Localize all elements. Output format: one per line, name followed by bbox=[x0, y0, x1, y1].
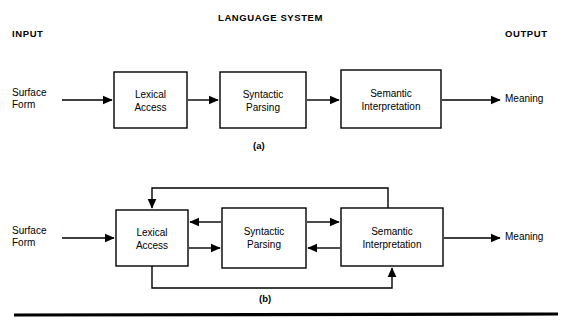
panel-b-input-label-line1: Surface bbox=[12, 225, 46, 237]
panel-b-label-syntactic-parsing: Syntactic Parsing bbox=[222, 226, 306, 251]
panel-b-label-lexical-access-line1: Lexical bbox=[116, 227, 188, 240]
panel-b-input-label: Surface Form bbox=[12, 225, 46, 249]
panel-b-feedback-semantic-to-lexical-top bbox=[152, 188, 388, 208]
panel-a-label-semantic-interpretation-line1: Semantic bbox=[341, 88, 441, 101]
panel-a-label-semantic-interpretation: Semantic Interpretation bbox=[341, 88, 441, 113]
panel-b-label-semantic-interpretation-line2: Interpretation bbox=[341, 239, 443, 252]
panel-a-input-label: Surface Form bbox=[12, 87, 46, 111]
panel-b-caption: (b) bbox=[259, 293, 271, 304]
header-language-system-label: LANGUAGE SYSTEM bbox=[218, 12, 323, 23]
panel-a-input-label-line1: Surface bbox=[12, 87, 46, 99]
panel-b-label-semantic-interpretation: Semantic Interpretation bbox=[341, 226, 443, 251]
panel-a-input-label-line2: Form bbox=[12, 99, 46, 111]
panel-a-label-syntactic-parsing: Syntactic Parsing bbox=[220, 89, 306, 114]
diagram-canvas bbox=[0, 0, 569, 329]
panel-b-label-syntactic-parsing-line2: Parsing bbox=[222, 239, 306, 252]
panel-a-label-lexical-access-line2: Access bbox=[114, 102, 187, 115]
panel-b-feedforward-lexical-to-semantic-bottom bbox=[152, 266, 392, 288]
bottom-rule bbox=[14, 314, 558, 315]
panel-b-label-syntactic-parsing-line1: Syntactic bbox=[222, 226, 306, 239]
header-input-label: INPUT bbox=[12, 28, 44, 39]
panel-b-label-semantic-interpretation-line1: Semantic bbox=[341, 226, 443, 239]
panel-a-label-syntactic-parsing-line1: Syntactic bbox=[220, 89, 306, 102]
panel-a-label-syntactic-parsing-line2: Parsing bbox=[220, 102, 306, 115]
panel-a-caption: (a) bbox=[253, 140, 265, 151]
panel-b-output-label: Meaning bbox=[505, 231, 543, 243]
panel-b-input-label-line2: Form bbox=[12, 237, 46, 249]
panel-a-label-lexical-access: Lexical Access bbox=[114, 89, 187, 114]
panel-a-label-semantic-interpretation-line2: Interpretation bbox=[341, 101, 441, 114]
panel-a-output-label: Meaning bbox=[505, 93, 543, 105]
panel-a-label-lexical-access-line1: Lexical bbox=[114, 89, 187, 102]
figure-root: INPUT LANGUAGE SYSTEM OUTPUT Surface For… bbox=[0, 0, 569, 329]
header-output-label: OUTPUT bbox=[505, 28, 548, 39]
panel-b-label-lexical-access-line2: Access bbox=[116, 240, 188, 253]
panel-b-label-lexical-access: Lexical Access bbox=[116, 227, 188, 252]
